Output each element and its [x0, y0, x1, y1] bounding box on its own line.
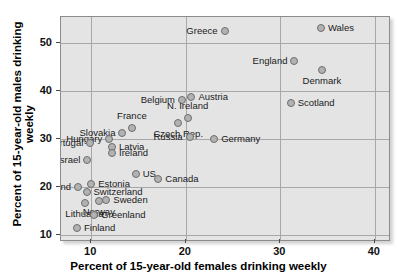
- data-point: [132, 170, 140, 178]
- data-point: [95, 197, 103, 205]
- data-point: [317, 24, 325, 32]
- data-point: [290, 57, 298, 65]
- data-point: [221, 27, 229, 35]
- scatter-chart: WalesGreeceEnglandDenmarkScotlandAustria…: [0, 0, 397, 280]
- data-point: [118, 129, 126, 137]
- data-point-label: Lithuania: [65, 209, 104, 219]
- data-point: [86, 139, 94, 147]
- data-point-label: Russia: [154, 132, 183, 142]
- y-axis-tick: [56, 186, 60, 187]
- data-point: [108, 149, 116, 157]
- data-point-label: France: [117, 111, 147, 121]
- x-axis-tick-label: 10: [84, 245, 96, 257]
- gridline-vertical: [375, 17, 376, 240]
- x-axis-tick: [279, 239, 280, 243]
- data-point-label: Wales: [328, 23, 354, 33]
- data-point-label: Poland: [61, 182, 71, 192]
- x-axis-title: Percent of 15-year-old females drinking …: [0, 260, 397, 272]
- data-point: [81, 199, 89, 207]
- data-point-label: Scotland: [298, 98, 335, 108]
- data-point: [184, 114, 192, 122]
- data-point: [210, 135, 218, 143]
- gridline-horizontal: [61, 235, 389, 236]
- data-point: [105, 135, 113, 143]
- data-point: [186, 133, 194, 141]
- gridline-horizontal: [61, 43, 389, 44]
- data-point: [102, 196, 110, 204]
- data-point: [318, 66, 326, 74]
- data-point-label: Denmark: [303, 76, 342, 86]
- data-point-label: Greece: [186, 26, 217, 36]
- data-point: [74, 183, 82, 191]
- plot-frame: WalesGreeceEnglandDenmarkScotlandAustria…: [60, 16, 390, 241]
- x-axis-tick: [90, 239, 91, 243]
- x-axis-tick: [374, 239, 375, 243]
- plot-area: WalesGreeceEnglandDenmarkScotlandAustria…: [61, 17, 389, 240]
- data-point-label: England: [253, 56, 288, 66]
- y-axis-tick-label: 50: [0, 36, 52, 48]
- x-axis-tick: [185, 239, 186, 243]
- data-point-label: Israel: [61, 155, 80, 165]
- data-point: [128, 124, 136, 132]
- y-axis-tick-label: 10: [0, 228, 52, 240]
- y-axis-tick-label: 20: [0, 180, 52, 192]
- x-axis-tick-label: 30: [273, 245, 285, 257]
- data-point: [174, 119, 182, 127]
- data-point-label: Portugal: [61, 138, 83, 148]
- y-axis-tick: [56, 234, 60, 235]
- data-point-label: Ireland: [119, 148, 148, 158]
- x-axis-tick-label: 20: [179, 245, 191, 257]
- data-point-label: N. Ireland: [167, 101, 208, 111]
- gridline-vertical: [280, 17, 281, 240]
- y-axis-tick: [56, 90, 60, 91]
- y-axis-tick-label: 40: [0, 84, 52, 96]
- x-axis-tick-label: 40: [368, 245, 380, 257]
- data-point-label: Sweden: [113, 195, 147, 205]
- data-point-label: Finland: [84, 223, 115, 233]
- data-point: [287, 99, 295, 107]
- data-point-label: Canada: [165, 174, 198, 184]
- y-axis-tick: [56, 42, 60, 43]
- y-axis-tick: [56, 138, 60, 139]
- data-point-label: Greenland: [101, 210, 145, 220]
- data-point: [83, 188, 91, 196]
- data-point: [154, 175, 162, 183]
- data-point-label: Germany: [221, 134, 260, 144]
- y-axis-tick-label: 30: [0, 132, 52, 144]
- data-point: [73, 224, 81, 232]
